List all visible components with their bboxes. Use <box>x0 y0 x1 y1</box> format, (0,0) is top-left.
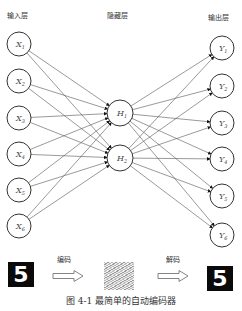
input-node: X5 <box>7 178 31 202</box>
output-node: Y3 <box>210 111 234 135</box>
encode-label: 编码 <box>57 254 71 264</box>
output-node: Y2 <box>210 74 234 98</box>
output-node: Y6 <box>210 223 234 247</box>
decode-arrow-icon <box>157 270 189 282</box>
figure-caption: 图 4-1 最简单的自动编码器 <box>0 294 242 307</box>
hidden-node: H2 <box>107 145 133 171</box>
output-digit-image: 5 <box>207 266 233 291</box>
decode-label: 解码 <box>166 254 180 264</box>
input-node: X4 <box>7 142 31 166</box>
output-node: Y4 <box>210 147 234 171</box>
encoded-representation-image <box>104 262 134 290</box>
input-digit-image: 5 <box>8 262 34 287</box>
hidden-node: H1 <box>107 100 133 126</box>
input-node: X2 <box>7 69 31 93</box>
output-node: Y1 <box>210 36 234 60</box>
output-node: Y5 <box>210 184 234 208</box>
input-node: X1 <box>7 32 31 56</box>
input-node: X3 <box>7 106 31 130</box>
encode-arrow-icon <box>52 270 84 282</box>
input-node: X6 <box>7 214 31 238</box>
